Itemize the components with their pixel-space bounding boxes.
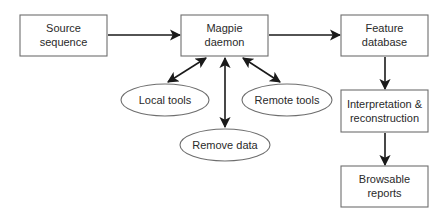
arrow-magpie-remote-tools xyxy=(243,58,280,82)
node-label: reconstruction xyxy=(350,112,419,124)
node-label: Feature xyxy=(366,22,404,34)
node-label: sequence xyxy=(40,36,88,48)
node-browsable-reports: Browsable reports xyxy=(341,166,428,207)
diagram-canvas: Source sequence Magpie daemon Feature da… xyxy=(0,0,447,217)
node-local-tools: Local tools xyxy=(121,84,209,116)
node-label: Browsable xyxy=(359,173,410,185)
node-label: Local tools xyxy=(139,94,192,106)
node-label: Magpie xyxy=(206,22,242,34)
node-label: Source xyxy=(46,22,81,34)
node-remove-data: Remove data xyxy=(180,129,270,161)
node-interpretation-reconstruction: Interpretation & reconstruction xyxy=(341,90,428,132)
node-source-sequence: Source sequence xyxy=(20,15,107,56)
node-label: Interpretation & xyxy=(347,98,423,110)
node-label: Remove data xyxy=(192,139,258,151)
node-label: Remote tools xyxy=(255,94,320,106)
node-magpie-daemon: Magpie daemon xyxy=(181,15,268,56)
node-label: daemon xyxy=(205,36,245,48)
node-feature-database: Feature database xyxy=(341,15,428,56)
node-label: database xyxy=(362,36,407,48)
arrow-magpie-local-tools xyxy=(168,58,206,82)
node-label: reports xyxy=(367,187,402,199)
node-remote-tools: Remote tools xyxy=(242,84,332,116)
